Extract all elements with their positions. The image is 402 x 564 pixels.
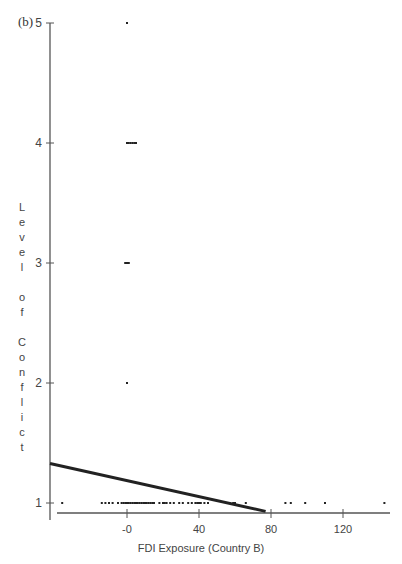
x-tick-label: -0 [122, 523, 132, 535]
data-point [104, 502, 106, 504]
y-tick-label: 4 [35, 136, 42, 150]
data-point [135, 142, 137, 144]
data-point [178, 502, 180, 504]
data-point [169, 502, 171, 504]
x-axis-label: FDI Exposure (Country B) [0, 542, 402, 554]
y-axis-label: Level of Conflict [14, 200, 30, 455]
y-tick-label: 5 [35, 16, 42, 30]
data-point [124, 502, 126, 504]
y-tick-label: 2 [35, 376, 42, 390]
data-point [148, 502, 150, 504]
data-point [128, 502, 130, 504]
data-point [131, 502, 133, 504]
data-point [128, 262, 130, 264]
data-point [203, 502, 205, 504]
regression-line [50, 463, 266, 511]
data-point [324, 502, 326, 504]
data-point [173, 502, 175, 504]
data-point [207, 502, 209, 504]
data-point [383, 502, 385, 504]
data-point [158, 502, 160, 504]
x-axis: -04080120 [57, 509, 390, 535]
data-point [166, 502, 168, 504]
data-point [196, 502, 198, 504]
data-point [130, 142, 132, 144]
data-point [153, 502, 155, 504]
data-point [126, 262, 128, 264]
data-point [126, 382, 128, 384]
data-point [101, 502, 103, 504]
data-point [149, 502, 151, 504]
data-point [164, 502, 166, 504]
data-point [133, 142, 135, 144]
data-point [130, 502, 132, 504]
y-axis: 12345 [35, 16, 54, 520]
data-point [126, 22, 128, 24]
data-points [61, 22, 385, 504]
x-tick-label: 80 [265, 523, 277, 535]
data-point [124, 262, 126, 264]
data-point [126, 142, 128, 144]
data-point [194, 502, 196, 504]
data-point [61, 502, 63, 504]
data-point [133, 502, 135, 504]
y-tick-label: 3 [35, 256, 42, 270]
data-point [187, 502, 189, 504]
data-point [162, 502, 164, 504]
data-point [112, 502, 114, 504]
data-point [191, 502, 193, 504]
data-point [142, 502, 144, 504]
data-point [131, 142, 133, 144]
y-tick-label: 1 [35, 496, 42, 510]
data-point [245, 502, 247, 504]
data-point [146, 502, 148, 504]
x-tick-label: 40 [193, 523, 205, 535]
data-point [126, 502, 128, 504]
data-point [284, 502, 286, 504]
data-point [122, 502, 124, 504]
data-point [128, 142, 130, 144]
data-point [304, 502, 306, 504]
data-point [139, 502, 141, 504]
data-point [140, 502, 142, 504]
data-point [108, 502, 110, 504]
scatter-plot: 12345 -04080120 [0, 0, 402, 564]
data-point [182, 502, 184, 504]
data-point [200, 502, 202, 504]
data-point [135, 502, 137, 504]
data-point [121, 502, 123, 504]
data-point [151, 502, 153, 504]
data-point [117, 502, 119, 504]
data-point [144, 502, 146, 504]
data-point [198, 502, 200, 504]
data-point [137, 502, 139, 504]
data-point [290, 502, 292, 504]
x-tick-label: 120 [334, 523, 352, 535]
